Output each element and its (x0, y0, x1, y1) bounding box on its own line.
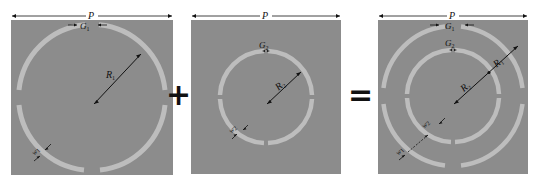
outer-ring-diagram: P G1 R1 w1 (8, 8, 178, 180)
panel-combined-rings: P G1 G2 R1 R2 w1 (375, 8, 531, 180)
period-label: P (261, 10, 268, 21)
period-label: P (448, 10, 455, 21)
period-dimension: P (192, 10, 340, 21)
period-dimension: P (379, 10, 527, 21)
period-label: P (87, 10, 94, 21)
panel-outer-ring: P G1 R1 w1 (8, 8, 178, 180)
period-dimension: P (12, 10, 172, 21)
substrate (191, 20, 341, 174)
panel-inner-ring: P G2 R2 w2 (188, 8, 344, 180)
radius-junction-dot (488, 71, 491, 74)
inner-ring-diagram: P G2 R2 w2 (188, 8, 344, 180)
equals-sign: = (348, 80, 373, 110)
combined-rings-diagram: P G1 G2 R1 R2 w1 (375, 8, 531, 180)
